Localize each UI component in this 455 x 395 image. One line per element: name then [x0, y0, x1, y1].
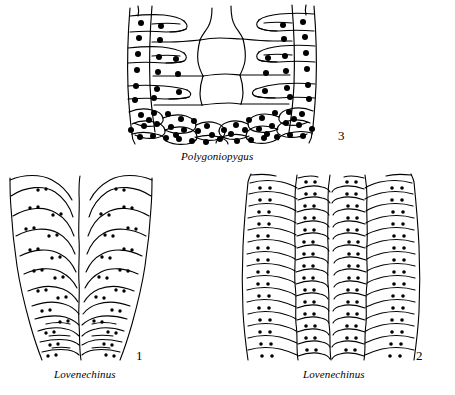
- figure-3-drawing: [108, 2, 338, 150]
- figure-3-illustration: [108, 2, 338, 150]
- tubercles-figure-1: [24, 187, 137, 357]
- figure-1-illustration: [8, 172, 156, 362]
- figure-1-drawing: [8, 172, 156, 362]
- figure-3-number: 3: [338, 128, 345, 144]
- figure-2-drawing: [238, 172, 424, 362]
- figure-1-caption: Lovenechinus: [54, 368, 116, 380]
- figure-2-illustration: [238, 172, 424, 362]
- figure-1-number: 1: [136, 348, 143, 364]
- tubercles-figure-2: [256, 180, 406, 358]
- figure-3-caption: Polygoniopygus: [181, 150, 253, 162]
- figure-2-number: 2: [416, 348, 423, 364]
- figure-2-caption: Lovenechinus: [303, 368, 365, 380]
